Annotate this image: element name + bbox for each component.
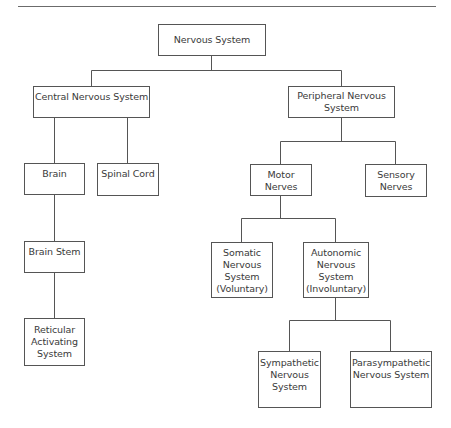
node-reticular-activating-system: Reticular Activating System [24, 318, 85, 366]
node-peripheral-nervous-system: Peripheral Nervous System [288, 86, 395, 118]
node-central-nervous-system: Central Nervous System [33, 86, 150, 118]
node-brain: Brain [24, 163, 85, 195]
node-somatic-nervous-system: Somatic Nervous System (Voluntary) [211, 242, 273, 298]
node-sensory-nerves: Sensory Nerves [365, 164, 427, 197]
node-parasympathetic-nervous-system: Parasympathetic Nervous System [350, 351, 432, 408]
node-spinal-cord: Spinal Cord [97, 163, 159, 196]
node-autonomic-nervous-system: Autonomic Nervous System (Involuntary) [303, 242, 369, 298]
node-brain-stem: Brain Stem [24, 241, 85, 273]
node-motor-nerves: Motor Nerves [250, 164, 312, 196]
node-sympathetic-nervous-system: Sympathetic Nervous System [258, 351, 321, 408]
node-nervous-system: Nervous System [158, 24, 266, 56]
